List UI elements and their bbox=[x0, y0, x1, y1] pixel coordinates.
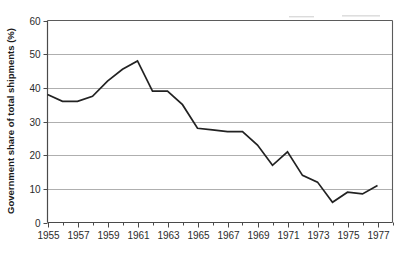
y-tick-label: 10 bbox=[29, 184, 41, 195]
y-axis-title: Government share of total shipments (%) bbox=[5, 28, 16, 214]
x-tick-label: 1963 bbox=[157, 230, 180, 241]
x-tick-label: 1967 bbox=[217, 230, 240, 241]
y-tick-label: 20 bbox=[29, 150, 41, 161]
x-tick-label: 1975 bbox=[337, 230, 360, 241]
x-tick-label: 1955 bbox=[37, 230, 60, 241]
x-tick-label: 1977 bbox=[367, 230, 390, 241]
x-tick-label: 1965 bbox=[187, 230, 210, 241]
y-tick-label: 40 bbox=[29, 83, 41, 94]
x-axis-tickmarks bbox=[49, 223, 394, 228]
x-tick-label: 1971 bbox=[277, 230, 300, 241]
scan-artifacts bbox=[289, 15, 380, 17]
x-tick-label: 1961 bbox=[127, 230, 150, 241]
plot-frame bbox=[48, 21, 393, 223]
x-tick-label: 1969 bbox=[247, 230, 270, 241]
y-tick-label: 50 bbox=[29, 49, 41, 60]
data-series-line bbox=[48, 61, 378, 202]
y-tick-label: 60 bbox=[29, 16, 41, 27]
line-chart: 0102030405060 19551957195919611963196519… bbox=[0, 0, 406, 253]
y-tick-label: 30 bbox=[29, 117, 41, 128]
y-axis-ticklabels: 0102030405060 bbox=[29, 16, 41, 229]
x-axis-ticklabels: 1955195719591961196319651967196919711973… bbox=[37, 230, 390, 241]
chart-container: 0102030405060 19551957195919611963196519… bbox=[0, 0, 406, 253]
x-tick-label: 1973 bbox=[307, 230, 330, 241]
x-tick-label: 1959 bbox=[97, 230, 120, 241]
gridlines bbox=[48, 55, 393, 190]
y-tick-label: 0 bbox=[35, 218, 41, 229]
x-tick-label: 1957 bbox=[67, 230, 90, 241]
